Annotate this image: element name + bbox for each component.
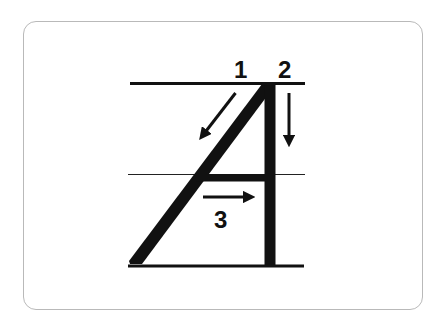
diagram-canvas: 1 2 3 bbox=[0, 0, 448, 330]
letter-a-stroke-diagram: 1 2 3 bbox=[0, 0, 448, 330]
stroke-2-vertical bbox=[265, 84, 276, 265]
stroke-3-crossbar bbox=[196, 174, 266, 182]
stroke-2-number: 2 bbox=[278, 56, 291, 83]
stroke-1-number: 1 bbox=[234, 56, 247, 83]
stroke-3-number: 3 bbox=[214, 206, 227, 233]
